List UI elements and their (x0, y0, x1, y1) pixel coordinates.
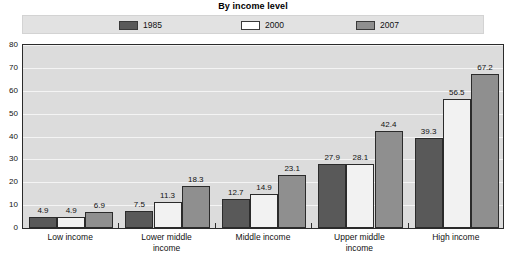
legend-swatch-2007 (356, 21, 375, 30)
legend-swatch-2000 (241, 21, 260, 30)
legend-item-2000[interactable]: 2000 (241, 19, 284, 32)
bar-value-label: 27.9 (318, 154, 346, 162)
bar-value-label: 67.2 (471, 64, 499, 72)
bar-2007-High-income[interactable] (471, 74, 499, 228)
x-axis-label-Upper-middle-income: Upper middleincome (311, 232, 407, 254)
gridline (23, 68, 503, 69)
bar-2007-Lower-middle-income[interactable] (182, 186, 210, 228)
gridline (23, 45, 503, 46)
legend-label-2007: 2007 (380, 21, 399, 30)
bar-value-label: 39.3 (415, 128, 443, 136)
bar-value-label: 56.5 (443, 89, 471, 97)
x-axis-label-line: income (311, 243, 407, 254)
legend-label-1985: 1985 (143, 21, 162, 30)
x-axis-label-line: Middle income (215, 232, 311, 243)
bar-value-label: 11.3 (154, 192, 182, 200)
bar-1985-Middle-income[interactable] (222, 199, 250, 228)
bar-1985-Upper-middle-income[interactable] (318, 164, 346, 228)
group-separator-tick (215, 223, 216, 228)
legend-swatch-1985 (119, 21, 138, 30)
group-separator-tick (311, 223, 312, 228)
bar-value-label: 18.3 (182, 176, 210, 184)
x-axis-label-Middle-income: Middle income (215, 232, 311, 243)
bar-value-label: 4.9 (57, 207, 85, 215)
bar-value-label: 7.5 (125, 201, 153, 209)
bar-value-label: 12.7 (222, 189, 250, 197)
x-axis-labels: Low incomeLower middleincomeMiddle incom… (22, 232, 504, 264)
y-tick-label: 0 (14, 224, 18, 232)
y-tick-label: 60 (9, 87, 18, 95)
bar-2007-Low-income[interactable] (85, 212, 113, 228)
bar-2000-Middle-income[interactable] (250, 194, 278, 228)
x-axis-label-line: Low income (22, 232, 118, 243)
bar-2007-Middle-income[interactable] (278, 175, 306, 228)
bar-2000-Upper-middle-income[interactable] (346, 164, 374, 228)
x-axis-label-Low-income: Low income (22, 232, 118, 243)
chart-title: By income level (0, 1, 506, 11)
x-axis-label-line: Upper middle (311, 232, 407, 243)
gridline (23, 114, 503, 115)
y-tick-label: 30 (9, 155, 18, 163)
y-tick-label: 80 (9, 41, 18, 49)
legend-item-1985[interactable]: 1985 (119, 19, 162, 32)
bar-value-label: 4.9 (29, 207, 57, 215)
gridline (23, 91, 503, 92)
x-axis-label-High-income: High income (408, 232, 504, 243)
x-axis-label-line: income (118, 243, 214, 254)
bar-2000-Low-income[interactable] (57, 217, 85, 228)
plot-area: 4.94.96.97.511.318.312.714.923.127.928.1… (23, 45, 503, 228)
group-separator-tick (118, 223, 119, 228)
bar-2007-Upper-middle-income[interactable] (375, 131, 403, 228)
y-tick-label: 40 (9, 133, 18, 141)
x-axis-label-Lower-middle-income: Lower middleincome (118, 232, 214, 254)
y-tick-label: 20 (9, 178, 18, 186)
bar-2000-Lower-middle-income[interactable] (154, 202, 182, 228)
chart-legend: 198520002007 (22, 15, 484, 34)
bar-value-label: 14.9 (250, 184, 278, 192)
bar-value-label: 42.4 (375, 121, 403, 129)
y-tick-label: 50 (9, 110, 18, 118)
bar-2000-High-income[interactable] (443, 99, 471, 228)
bar-value-label: 28.1 (346, 154, 374, 162)
bar-1985-Low-income[interactable] (29, 217, 57, 228)
y-axis: 01020304050607080 (0, 44, 22, 229)
group-separator-tick (408, 223, 409, 228)
legend-item-2007[interactable]: 2007 (356, 19, 399, 32)
y-tick-label: 10 (9, 201, 18, 209)
bar-value-label: 6.9 (85, 202, 113, 210)
bar-1985-Lower-middle-income[interactable] (125, 211, 153, 228)
bar-1985-High-income[interactable] (415, 138, 443, 228)
x-axis-label-line: Lower middle (118, 232, 214, 243)
y-tick-label: 70 (9, 64, 18, 72)
bar-value-label: 23.1 (278, 165, 306, 173)
plot-frame: 4.94.96.97.511.318.312.714.923.127.928.1… (22, 44, 504, 229)
legend-label-2000: 2000 (265, 21, 284, 30)
x-axis-label-line: High income (408, 232, 504, 243)
